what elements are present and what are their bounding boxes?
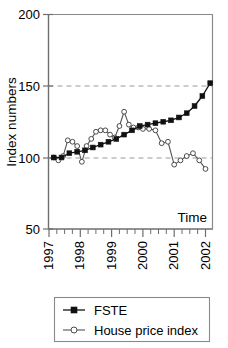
data-point-fste [137, 124, 142, 129]
data-point-house-price-index [103, 128, 108, 133]
data-point-fste [153, 121, 158, 126]
data-point-house-price-index [178, 158, 183, 163]
x-tick-label-1998: 1998 [72, 241, 87, 270]
data-point-fste [177, 115, 182, 120]
data-point-fste [106, 139, 111, 144]
data-point-house-price-index [153, 128, 158, 133]
x-axis-title: Time [178, 210, 208, 225]
legend-label-house-price-index: House price index [94, 323, 199, 338]
house-price-index-markers [51, 109, 208, 171]
chart-svg: 200 150 100 50 Index numbers [0, 0, 228, 348]
data-point-house-price-index [203, 167, 208, 172]
data-point-fste [114, 137, 119, 142]
y-axis-tick-labels: 200 150 100 50 [18, 7, 40, 237]
x-tick-label-1999: 1999 [104, 241, 119, 270]
filled-square-icon [71, 307, 77, 313]
data-point-house-price-index [191, 151, 196, 156]
x-tick-label-2000: 2000 [135, 241, 150, 270]
data-point-fste [51, 155, 56, 160]
gridlines [49, 86, 213, 158]
x-tick-label-2002: 2002 [198, 241, 213, 270]
data-point-fste [161, 119, 166, 124]
data-point-fste [169, 118, 174, 123]
data-point-house-price-index [159, 141, 164, 146]
data-point-house-price-index [65, 138, 70, 143]
data-point-fste [184, 111, 189, 116]
data-point-house-price-index [172, 162, 177, 167]
data-point-fste [90, 145, 95, 150]
data-point-fste [59, 155, 64, 160]
series-house-price-index [51, 109, 208, 171]
data-point-fste [75, 149, 80, 154]
y-tick-label-50: 50 [26, 222, 40, 237]
data-point-house-price-index [166, 139, 171, 144]
data-point-fste [130, 128, 135, 133]
y-tick-label-100: 100 [18, 151, 40, 166]
data-point-fste [122, 132, 127, 137]
y-tick-label-200: 200 [18, 7, 40, 22]
x-axis-minor-ticks [57, 229, 198, 234]
y-axis-title: Index numbers [4, 77, 19, 167]
chart-figure: 200 150 100 50 Index numbers [0, 0, 228, 348]
legend: FSTE House price index [55, 298, 210, 342]
y-tick-label-150: 150 [18, 79, 40, 94]
data-point-house-price-index [75, 144, 80, 149]
data-point-house-price-index [117, 124, 122, 129]
data-point-house-price-index [70, 139, 75, 144]
data-point-house-price-index [197, 158, 202, 163]
data-point-fste [200, 94, 205, 99]
plot-frame [49, 14, 214, 229]
legend-label-fste: FSTE [94, 303, 128, 318]
x-axis-tick-labels: 1997 1998 1999 2000 2001 2002 [41, 241, 213, 270]
x-tick-label-2001: 2001 [166, 241, 181, 270]
open-circle-icon [71, 327, 77, 333]
data-point-fste [67, 151, 72, 156]
data-point-fste [83, 148, 88, 153]
data-point-house-price-index [184, 154, 189, 159]
data-point-fste [192, 104, 197, 109]
data-point-house-price-index [79, 159, 84, 164]
x-tick-label-1997: 1997 [41, 241, 56, 270]
data-point-house-price-index [122, 109, 127, 114]
data-point-fste [98, 142, 103, 147]
data-point-fste [145, 122, 150, 127]
data-point-house-price-index [98, 128, 103, 133]
data-point-house-price-index [126, 122, 131, 127]
data-point-fste [208, 81, 213, 86]
data-point-house-price-index [89, 137, 94, 142]
data-point-house-price-index [108, 132, 113, 137]
data-point-house-price-index [94, 129, 99, 134]
